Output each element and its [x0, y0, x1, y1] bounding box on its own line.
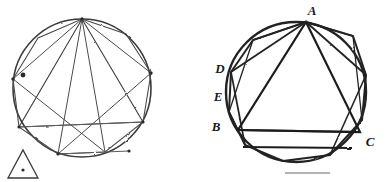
left-vertex-dot-east: [149, 71, 152, 74]
label-D: D: [214, 61, 225, 76]
right-horizontal-chord-lower: [243, 147, 352, 148]
left-vertex-dot-west: [11, 77, 14, 80]
left-vertex-dot-lower-west: [56, 152, 59, 155]
label-E: E: [213, 89, 223, 104]
left-vertex-dot-southwest: [17, 125, 20, 128]
left-vertex-dot-apex: [80, 17, 83, 20]
label-A: A: [307, 3, 317, 18]
label-B: B: [211, 119, 221, 134]
label-C: C: [366, 134, 375, 149]
left-vertex-dot-southeast: [141, 120, 144, 123]
geometry-figure-canvas: A D E B C: [0, 0, 385, 182]
small-triangle-center-dot: [21, 168, 24, 171]
left-vertex-dot-lower-east: [127, 149, 130, 152]
left-interior-marker-dot: [21, 73, 26, 78]
